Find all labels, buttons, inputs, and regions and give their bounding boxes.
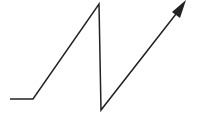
zigzag-path: [10, 4, 176, 110]
zigzag-arrow-diagram: [0, 0, 198, 130]
